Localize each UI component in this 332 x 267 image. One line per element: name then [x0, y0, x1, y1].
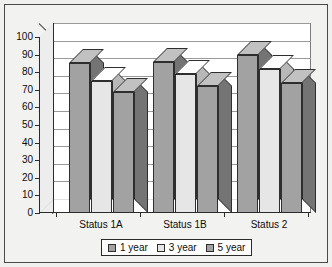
chart-legend: 1 year3 year5 year: [101, 239, 252, 256]
x-tick-mark: [224, 213, 225, 217]
bar-status-2-3-year: [259, 55, 280, 213]
bar-status-1a-3-year: [91, 67, 112, 213]
bar-front-face: [175, 74, 196, 213]
chart-frame: 1009080706050403020100: [4, 4, 328, 263]
y-tick-label: 50: [5, 120, 33, 130]
legend-item-5-year[interactable]: 5 year: [206, 243, 246, 253]
x-tick-label-status-2: Status 2: [227, 219, 311, 230]
chart-figure: 1009080706050403020100: [0, 0, 332, 267]
bar-side-face: [134, 78, 148, 213]
legend-item-1-year[interactable]: 1 year: [108, 243, 148, 253]
x-tick-mark: [308, 213, 309, 217]
x-tick-label-status-1b: Status 1B: [143, 219, 227, 230]
y-tick-label: 80: [5, 67, 33, 77]
bar-front-face: [281, 83, 302, 213]
bar-status-1a-5-year: [113, 78, 134, 213]
y-tick-label: 0: [5, 208, 33, 218]
legend-label: 1 year: [120, 243, 148, 253]
legend-item-3-year[interactable]: 3 year: [157, 243, 197, 253]
legend-swatch-icon: [108, 244, 116, 252]
y-tick-label: 100: [5, 32, 33, 42]
legend-label: 3 year: [169, 243, 197, 253]
bar-status-2-5-year: [281, 69, 302, 213]
y-tick-label: 30: [5, 155, 33, 165]
bar-side-face: [218, 72, 232, 213]
x-tick-mark: [140, 213, 141, 217]
y-tick-label: 70: [5, 85, 33, 95]
y-tick-label: 60: [5, 102, 33, 112]
bar-status-2-1-year: [237, 41, 258, 213]
legend-label: 5 year: [218, 243, 246, 253]
bar-status-1b-5-year: [197, 72, 218, 213]
bar-front-face: [237, 55, 258, 213]
bar-front-face: [91, 81, 112, 213]
gridline-100: [53, 23, 311, 24]
legend-swatch-icon: [157, 244, 165, 252]
gridline-90: [53, 41, 311, 42]
bar-front-face: [259, 69, 280, 213]
bar-front-face: [153, 62, 174, 213]
bar-front-face: [69, 63, 90, 213]
bar-status-1a-1-year: [69, 49, 90, 213]
bar-status-1b-3-year: [175, 60, 196, 213]
plot-wrapper: 1009080706050403020100: [5, 5, 329, 237]
x-tick-mark: [56, 213, 57, 217]
side-wall-shape: [39, 23, 54, 214]
legend-swatch-icon: [206, 244, 214, 252]
plot-area: [39, 23, 311, 217]
y-axis-back-line: [53, 23, 54, 213]
y-tick-label: 20: [5, 173, 33, 183]
plot-side-wall: [39, 23, 54, 213]
y-tick-label: 10: [5, 190, 33, 200]
y-tick-label: 90: [5, 50, 33, 60]
bar-side-face: [302, 69, 316, 213]
bar-front-face: [197, 86, 218, 213]
y-tick-label: 40: [5, 138, 33, 148]
x-axis-line: [39, 212, 311, 213]
y-axis-line: [39, 37, 40, 213]
x-tick-label-status-1a: Status 1A: [59, 219, 143, 230]
bar-status-1b-1-year: [153, 48, 174, 213]
bar-front-face: [113, 92, 134, 213]
